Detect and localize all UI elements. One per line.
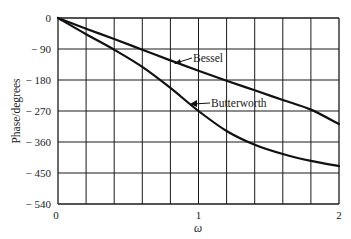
y-tick-label: − 90 <box>31 43 51 55</box>
y-axis-label: Phase/degrees <box>10 78 23 144</box>
phase-chart: 0− 90− 180− 270− 360− 450− 540 012 Phase… <box>0 0 351 239</box>
x-tick-label: 0 <box>53 209 59 221</box>
y-tick-label: − 180 <box>26 74 52 86</box>
y-axis-ticks: 0− 90− 180− 270− 360− 450− 540 <box>26 12 52 210</box>
annotation-bessel: Bessel <box>174 52 223 64</box>
x-tick-label: 2 <box>336 209 342 221</box>
annotation-butterworth: Butterworth <box>190 97 267 109</box>
x-axis-ticks: 012 <box>53 209 342 221</box>
y-tick-label: − 540 <box>26 198 52 210</box>
bessel-label: Bessel <box>193 52 223 64</box>
y-tick-label: 0 <box>46 12 52 24</box>
x-axis-label: ω <box>194 222 202 234</box>
x-tick-label: 1 <box>196 209 202 221</box>
y-tick-label: − 270 <box>26 105 52 117</box>
butterworth-label: Butterworth <box>211 97 267 109</box>
y-tick-label: − 360 <box>26 136 52 148</box>
y-tick-label: − 450 <box>26 167 52 179</box>
